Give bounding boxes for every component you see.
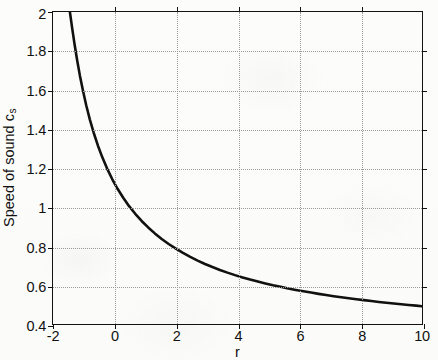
xtick-label-10: 10 bbox=[414, 328, 430, 344]
y-axis-title-text: Speed of sound c bbox=[1, 114, 17, 227]
xtick-label-0: 0 bbox=[111, 328, 119, 344]
tick-x-top-2 bbox=[177, 7, 178, 12]
tick-y-2.0 bbox=[48, 12, 53, 13]
tick-y-0.6 bbox=[48, 287, 53, 288]
ytick-label-1.6: 1.6 bbox=[26, 83, 46, 99]
ytick-label-2: 2 bbox=[38, 6, 46, 22]
xtick-label-4: 4 bbox=[235, 328, 243, 344]
curve-svg bbox=[53, 12, 422, 324]
tick-y-right-0.6 bbox=[422, 287, 427, 288]
plot-area: 0.4 0.6 0.8 1 1.2 1.4 1.6 1.8 2 -2 0 2 4… bbox=[52, 11, 423, 325]
xtick-label--2: -2 bbox=[47, 328, 60, 344]
figure-canvas: 0.4 0.6 0.8 1 1.2 1.4 1.6 1.8 2 -2 0 2 4… bbox=[0, 0, 438, 360]
tick-y-1.6 bbox=[48, 91, 53, 92]
tick-y-1.2 bbox=[48, 169, 53, 170]
tick-y-right-1.4 bbox=[422, 130, 427, 131]
tick-y-right-1.6 bbox=[422, 91, 427, 92]
tick-x-top-8 bbox=[362, 7, 363, 12]
tick-y-right-1.8 bbox=[422, 51, 427, 52]
ytick-label-0.6: 0.6 bbox=[26, 279, 46, 295]
x-axis-title: r bbox=[52, 344, 423, 360]
tick-y-1.8 bbox=[48, 51, 53, 52]
ytick-label-1.2: 1.2 bbox=[26, 161, 46, 177]
ytick-label-0.8: 0.8 bbox=[26, 240, 46, 256]
y-axis-title: Speed of sound cs bbox=[0, 11, 18, 325]
ytick-label-1.8: 1.8 bbox=[26, 43, 46, 59]
ytick-label-0.4: 0.4 bbox=[26, 318, 46, 334]
tick-y-right-1.2 bbox=[422, 169, 427, 170]
xtick-label-2: 2 bbox=[173, 328, 181, 344]
tick-y-1.4 bbox=[48, 130, 53, 131]
tick-x-top-6 bbox=[300, 7, 301, 12]
tick-y-1.0 bbox=[48, 208, 53, 209]
speed-of-sound-curve bbox=[70, 12, 422, 306]
ytick-label-1: 1 bbox=[38, 200, 46, 216]
xtick-label-6: 6 bbox=[296, 328, 304, 344]
tick-y-right-0.8 bbox=[422, 248, 427, 249]
tick-y-0.8 bbox=[48, 248, 53, 249]
tick-y-right-1.0 bbox=[422, 208, 427, 209]
xtick-label-8: 8 bbox=[358, 328, 366, 344]
tick-x-top-4 bbox=[239, 7, 240, 12]
ytick-label-1.4: 1.4 bbox=[26, 122, 46, 138]
tick-x-top-0 bbox=[115, 7, 116, 12]
y-axis-title-subscript: s bbox=[7, 109, 18, 114]
